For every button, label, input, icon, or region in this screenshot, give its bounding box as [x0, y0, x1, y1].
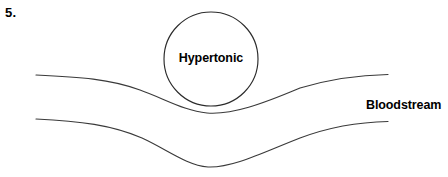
figure-container: 5. Hypertonic Bloodstream: [0, 0, 448, 177]
item-number-label: 5.: [5, 6, 16, 19]
diagram-canvas: [0, 0, 448, 177]
hypertonic-cell-label: Hypertonic: [0, 52, 422, 65]
bloodstream-label: Bloodstream: [366, 99, 441, 112]
vessel-wall-upper-path: [36, 75, 388, 114]
vessel-wall-lower-path: [36, 119, 388, 167]
